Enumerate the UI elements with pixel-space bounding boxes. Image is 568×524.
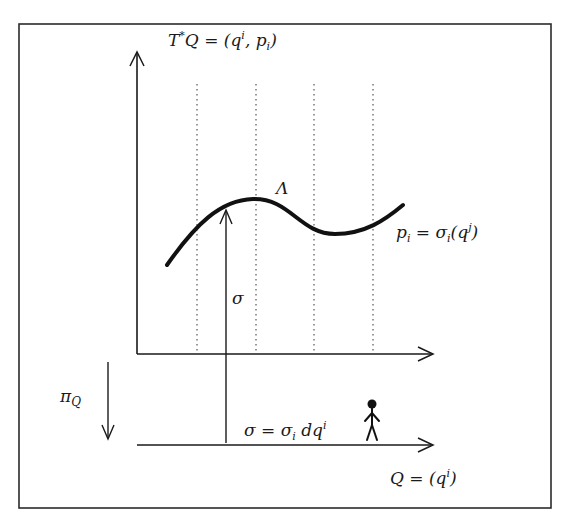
- base-manifold-label: Q = (qi): [390, 468, 457, 487]
- lagrangian-curve: [167, 199, 403, 265]
- cotangent-bundle-diagram: [0, 0, 568, 524]
- dotted-fibers: [197, 84, 373, 352]
- projection-label: πQ: [60, 388, 81, 408]
- sigma-label: σ: [232, 290, 244, 307]
- cotangent-bundle-label: T*Q = (qi, pi): [168, 30, 277, 52]
- section-equation-label: pi = σi(qj): [396, 222, 478, 244]
- stick-figure-icon: [365, 400, 379, 441]
- lambda-label: Λ: [276, 180, 288, 197]
- one-form-label: σ = σi dqi: [244, 420, 327, 442]
